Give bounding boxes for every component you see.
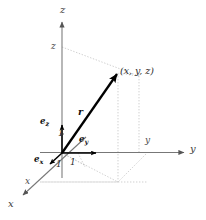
axis-label-z: z <box>60 5 65 15</box>
vector-label-r: r <box>78 107 83 117</box>
coordinate-mark-y: y <box>145 136 150 145</box>
basis-magnitude-ez: 1 <box>58 129 64 138</box>
basis-magnitude-ex: 1 <box>56 160 62 169</box>
dotted-ground-ymark-to-projection <box>118 152 148 182</box>
basis-label-ey: ey <box>79 135 88 144</box>
basis-ey-subscript: y <box>84 138 88 146</box>
axis-label-x: x <box>8 199 14 209</box>
basis-label-ez: ez <box>40 117 49 126</box>
basis-label-ex: ex <box>34 155 43 164</box>
axes-group <box>23 22 184 195</box>
basis-magnitude-ey: 1 <box>70 158 76 167</box>
position-vector-r <box>62 74 117 153</box>
figure-canvas <box>0 0 206 220</box>
coordinate-mark-z: z <box>51 42 56 51</box>
axis-label-y: y <box>190 144 196 154</box>
x-axis-line <box>23 137 86 195</box>
point-label: (x, y, z) <box>120 66 154 76</box>
basis-ez-subscript: z <box>45 120 49 128</box>
coordinate-system-figure: z y x z y x (x, y, z) r ez 1 ey 1 ex 1 <box>0 0 206 220</box>
coordinate-mark-x: x <box>25 177 30 186</box>
basis-ex-subscript: x <box>39 158 43 166</box>
